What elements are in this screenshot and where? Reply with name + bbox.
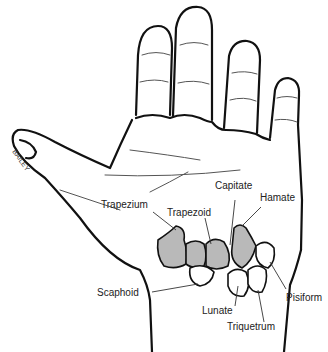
label-hamate: Hamate: [260, 193, 295, 203]
carpal-bones: [158, 225, 275, 296]
capitate-bone: [206, 239, 229, 269]
label-capitate: Capitate: [215, 181, 252, 191]
trapezium-bone: [158, 226, 187, 268]
triquetrum-bone: [248, 266, 267, 292]
label-lunate: Lunate: [202, 306, 233, 316]
label-trapezoid: Trapezoid: [167, 208, 211, 218]
hand-diagram: [0, 0, 328, 352]
hamate-bone: [232, 225, 256, 268]
hand-outline: [13, 7, 302, 352]
palm-creases: [60, 43, 297, 211]
label-triquetrum: Triquetrum: [227, 322, 275, 332]
lunate-bone: [228, 269, 249, 296]
label-pisiform: Pisiform: [286, 293, 322, 303]
trapezoid-bone: [186, 241, 206, 268]
label-scaphoid: Scaphoid: [97, 288, 139, 298]
label-trapezium: Trapezium: [101, 200, 148, 210]
scaphoid-bone: [190, 266, 214, 286]
